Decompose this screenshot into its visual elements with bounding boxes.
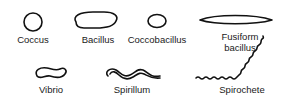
coccus: Coccus xyxy=(17,13,49,45)
bacillus: Bacillus xyxy=(75,12,117,45)
coccobacillus: Coccobacillus xyxy=(128,15,187,46)
fusiform-bacillus: Fusiform bacillus xyxy=(200,16,272,54)
coccobacillus-label: Coccobacillus xyxy=(128,34,187,45)
coccobacillus-shape xyxy=(148,15,166,28)
bacillus-label: Bacillus xyxy=(82,34,115,45)
fusiform-bacillus-shape xyxy=(200,16,272,24)
coccus-shape xyxy=(24,13,42,31)
vibrio: Vibrio xyxy=(36,68,66,95)
fusiform-label-line1: Fusiform xyxy=(222,31,259,42)
fusiform-label-line2: bacillus xyxy=(224,42,256,53)
bacillus-shape xyxy=(75,12,117,28)
spirillum-label: Spirillum xyxy=(114,84,151,95)
bacteria-shapes-diagram: Coccus Bacillus Coccobacillus Fusiform b… xyxy=(0,0,283,104)
vibrio-shape xyxy=(36,68,66,78)
coccus-label: Coccus xyxy=(17,34,49,45)
vibrio-label: Vibrio xyxy=(39,84,63,95)
spirochete-label: Spirochete xyxy=(219,84,264,95)
spirillum: Spirillum xyxy=(107,69,160,95)
